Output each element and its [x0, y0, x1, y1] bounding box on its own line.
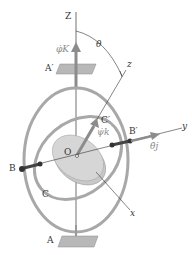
- label-theta: θ: [96, 40, 101, 49]
- label-O: O: [64, 148, 71, 157]
- label-z: z: [127, 60, 132, 69]
- label-theta-dot-j: θ̇j: [150, 142, 158, 151]
- label-A-prime: A′: [45, 64, 54, 73]
- x-axis: [96, 172, 130, 210]
- label-C-prime: C′: [101, 116, 110, 125]
- label-Z: Z: [65, 12, 71, 21]
- label-B: B: [9, 164, 16, 173]
- origin-O: [76, 155, 79, 158]
- theta-dot-arrow: [131, 136, 152, 141]
- label-y: y: [182, 122, 187, 131]
- label-psi-dot-k: ψ̇k: [97, 128, 110, 137]
- label-x: x: [130, 209, 135, 218]
- plate-A: [58, 236, 98, 247]
- label-C: C: [42, 190, 49, 199]
- label-B-prime: B′: [129, 127, 138, 136]
- label-A: A: [47, 236, 54, 245]
- label-phi-dot-K: φ̇K: [56, 45, 69, 54]
